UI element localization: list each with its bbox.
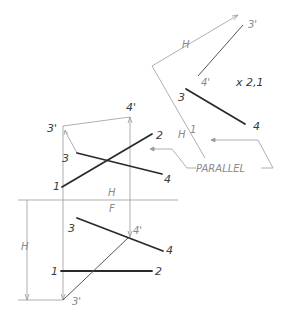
fold-label-h: H: [108, 187, 116, 198]
label-top-3prime: 3': [47, 122, 57, 135]
arrow-head: [150, 147, 154, 151]
label-top-1: 1: [53, 180, 60, 193]
aux-line-3-4: [186, 89, 245, 124]
label-front-4: 4: [166, 244, 173, 257]
label-top-4: 4: [164, 173, 171, 186]
aux-fold-label-h: H: [178, 129, 186, 140]
dimension-h-left-label: H: [21, 241, 29, 252]
label-aux-3prime: 3': [248, 19, 257, 30]
label-top-3: 3: [62, 152, 69, 165]
aux-line-3prime-4prime: [198, 25, 243, 76]
parallel-leader-top: [150, 149, 196, 168]
label-aux-3: 3: [178, 91, 185, 104]
dimension-h-aux-label: H: [182, 39, 190, 50]
label-front-2: 2: [155, 265, 162, 278]
label-top-4prime: 4': [126, 101, 136, 114]
label-aux-4prime: 4': [201, 77, 210, 88]
label-front-1: 1: [51, 265, 58, 278]
aux-fold-label-1: 1: [190, 124, 196, 135]
top-3prime-4prime-line: [63, 117, 130, 126]
label-front-3prime: 3': [72, 296, 81, 307]
label-front-4prime: 4': [133, 225, 142, 236]
aux-fold-line: [152, 66, 205, 158]
label-aux-4: 4: [253, 120, 260, 133]
arrow-head: [211, 138, 215, 142]
front-line-3prime-4prime: [63, 238, 128, 300]
arrow-head: [232, 15, 238, 20]
label-aux-point-view: x 2,1: [235, 76, 264, 89]
parallel-note: PARALLEL: [196, 163, 245, 174]
label-top-2: 2: [156, 129, 163, 142]
dimension-h-aux: [152, 15, 238, 66]
fold-label-f: F: [109, 203, 115, 214]
leader-3-3prime: [65, 131, 77, 153]
projection-drawing: 3' 4' 3 4 1 2 H F 3 4 4' 1 2 3' H H 1 H …: [0, 0, 285, 319]
label-front-3: 3: [68, 222, 75, 235]
